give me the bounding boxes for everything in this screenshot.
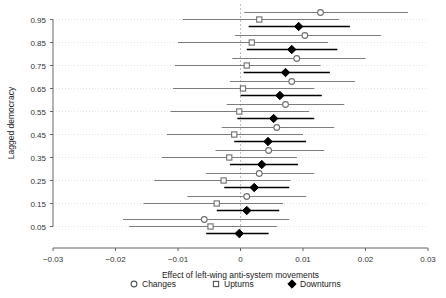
point-marker-filled-diamond [258, 160, 266, 168]
point-marker-open-square [227, 155, 232, 160]
legend-marker-filled-diamond [288, 280, 296, 288]
legend-item-downturns: Downturns [288, 279, 341, 289]
point-marker-filled-diamond [235, 229, 243, 237]
estimate-changes-0.15 [187, 194, 306, 200]
estimate-upturns-0.95 [183, 17, 339, 22]
estimate-downturns-0.55 [237, 114, 314, 122]
chart-canvas: 0.050.150.250.350.450.550.650.750.850.95… [0, 0, 446, 298]
point-marker-open-circle [244, 194, 250, 200]
y-tick-label: 0.25 [30, 177, 46, 186]
legend-item-upturns: Upturns [213, 279, 253, 289]
point-marker-filled-diamond [264, 137, 272, 145]
point-marker-open-circle [256, 171, 262, 177]
point-marker-open-circle [283, 102, 289, 108]
y-tick-label: 0.05 [30, 223, 46, 232]
point-marker-open-circle [318, 10, 324, 16]
estimate-upturns-0.15 [144, 201, 283, 206]
estimate-downturns-0.75 [244, 68, 330, 76]
estimate-changes-0.75 [232, 56, 365, 62]
y-tick-label: 0.75 [30, 62, 46, 71]
estimate-downturns-0.95 [249, 22, 350, 30]
x-axis-title: Effect of left-wing anti-system movement… [162, 270, 319, 280]
estimate-upturns-0.25 [154, 178, 290, 183]
estimate-upturns-0.65 [173, 86, 314, 91]
estimate-changes-0.25 [206, 171, 314, 177]
point-marker-open-circle [274, 125, 280, 131]
estimate-upturns-0.55 [171, 109, 310, 114]
legend-label: Changes [142, 279, 176, 289]
x-tick-label: 0 [238, 255, 243, 264]
point-marker-filled-diamond [250, 183, 258, 191]
estimate-changes-0.95 [244, 10, 408, 16]
chart-legend: ChangesUpturnsDownturns [131, 279, 341, 289]
gridlines [53, 20, 428, 227]
estimate-downturns-0.85 [247, 45, 338, 53]
x-tick-label: 0.01 [295, 255, 311, 264]
estimate-changes-0.65 [230, 79, 355, 85]
x-tick-label: −0.01 [168, 255, 189, 264]
y-tick-label: 0.65 [30, 85, 46, 94]
point-marker-open-square [257, 17, 262, 22]
estimate-downturns-0.25 [224, 183, 289, 191]
estimate-upturns-0.85 [178, 40, 328, 45]
point-marker-open-square [214, 201, 219, 206]
legend-label: Downturns [300, 279, 341, 289]
y-tick-label: 0.95 [30, 16, 46, 25]
point-marker-open-square [244, 63, 249, 68]
point-marker-open-circle [266, 148, 272, 154]
estimate-upturns-0.75 [175, 63, 321, 68]
estimate-downturns-0.65 [241, 91, 322, 99]
legend-marker-open-square [213, 281, 218, 286]
legend-label: Upturns [224, 279, 254, 289]
x-tick-label: 0.02 [358, 255, 374, 264]
point-marker-filled-diamond [276, 91, 284, 99]
estimate-changes-0.35 [216, 148, 325, 154]
point-marker-open-circle [302, 33, 308, 39]
point-marker-filled-diamond [243, 206, 251, 214]
x-tick-label: −0.03 [43, 255, 64, 264]
estimate-changes-0.85 [235, 33, 381, 39]
estimate-changes-0.45 [222, 125, 335, 131]
point-marker-open-square [232, 132, 237, 137]
point-marker-filled-diamond [294, 22, 302, 30]
point-marker-open-circle [294, 56, 300, 62]
x-tick-label: 0.03 [420, 255, 436, 264]
point-marker-open-circle [201, 217, 207, 223]
point-marker-filled-diamond [288, 45, 296, 53]
point-marker-open-square [249, 40, 254, 45]
estimate-changes-0.55 [227, 102, 345, 108]
x-tick-label: −0.02 [105, 255, 126, 264]
estimate-downturns-0.15 [217, 206, 280, 214]
point-marker-open-square [208, 224, 213, 229]
axis-layer [50, 20, 428, 252]
y-tick-label: 0.55 [30, 108, 46, 117]
legend-marker-open-circle [131, 281, 137, 287]
y-tick-label: 0.35 [30, 154, 46, 163]
point-marker-filled-diamond [269, 114, 277, 122]
y-tick-label: 0.15 [30, 200, 46, 209]
y-tick-label: 0.85 [30, 39, 46, 48]
y-axis-title: Lagged democracy [6, 86, 16, 159]
y-tick-label: 0.45 [30, 131, 46, 140]
estimate-changes-0.05 [123, 217, 289, 223]
point-marker-filled-diamond [281, 68, 289, 76]
estimate-downturns-0.45 [234, 137, 306, 145]
estimate-downturns-0.35 [230, 160, 298, 168]
point-marker-open-square [237, 109, 242, 114]
legend-item-changes: Changes [131, 279, 176, 289]
point-marker-open-square [240, 86, 245, 91]
estimate-upturns-0.45 [167, 132, 303, 137]
point-marker-open-circle [289, 79, 295, 85]
estimate-upturns-0.05 [129, 224, 277, 229]
forest-plot-figure: 0.050.150.250.350.450.550.650.750.850.95… [0, 0, 446, 298]
estimate-downturns-0.05 [206, 229, 269, 237]
estimate-upturns-0.35 [162, 155, 297, 160]
point-marker-open-square [221, 178, 226, 183]
